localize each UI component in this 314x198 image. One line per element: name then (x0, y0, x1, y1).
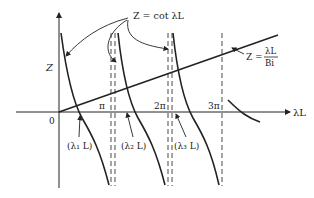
line-z-lambda-bi (59, 35, 278, 112)
eigenvalue-diagram: Z λL 0 π 2π 3π Z = cot λL Z = λL Bi (λ₁ … (0, 0, 314, 198)
root-label-2: (λ₂ L) (121, 141, 146, 151)
root-label-3: (λ₃ L) (174, 141, 199, 151)
origin-label: 0 (49, 116, 55, 126)
root-arrows (79, 113, 186, 137)
root-label-1: (λ₁ L) (67, 141, 92, 151)
x-tick-2pi: 2π (154, 101, 166, 111)
x-tick-pi: π (99, 101, 105, 111)
y-axis-label: Z (45, 62, 54, 73)
x-axis-label: λL (293, 107, 306, 118)
line-label-lhs: Z = (246, 52, 263, 62)
x-tick-3pi: 3π (208, 101, 220, 111)
cot-label-arrows (66, 18, 168, 62)
asymptotes (111, 33, 222, 186)
line-label-numerator: λL (265, 46, 276, 56)
line-label-denominator: Bi (265, 58, 274, 68)
cot-curve-label: Z = cot λL (133, 10, 184, 21)
